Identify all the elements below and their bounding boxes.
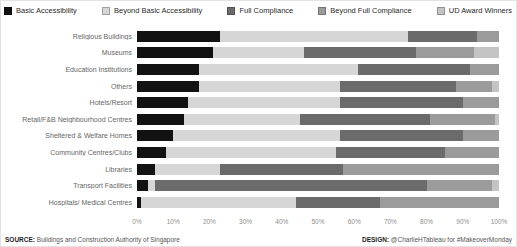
bar-segment — [416, 47, 474, 58]
bar-segment — [495, 114, 499, 125]
stacked-bar — [137, 64, 499, 75]
category-label: Museums — [1, 49, 137, 56]
bar-segment — [155, 180, 427, 191]
stacked-bar — [137, 81, 499, 92]
bar-segment — [155, 164, 220, 175]
x-axis-tick: 30% — [239, 218, 252, 225]
legend-item-4: Beyond Full Compliance — [318, 6, 411, 15]
bar-segment — [137, 81, 199, 92]
bar-segment — [340, 97, 463, 108]
legend-label: UD Award Winners — [449, 6, 512, 15]
category-label: Transport Facilities — [1, 182, 137, 189]
bar-segment — [340, 130, 463, 141]
bar-segment — [137, 114, 184, 125]
stacked-bar — [137, 31, 499, 42]
legend-swatch-icon — [227, 7, 235, 15]
x-axis-tick: 50% — [311, 218, 324, 225]
bar-segment — [173, 130, 340, 141]
bar-segment — [358, 64, 470, 75]
bar-row: Libraries — [1, 161, 517, 178]
bar-segment — [380, 197, 499, 208]
x-axis-tick: 80% — [420, 218, 433, 225]
bar-segment — [343, 164, 499, 175]
x-axis-tick: 100% — [491, 218, 508, 225]
legend-label: Beyond Full Compliance — [330, 6, 411, 15]
bar-segment — [474, 47, 499, 58]
bar-segment — [188, 97, 340, 108]
bar-segment — [340, 81, 456, 92]
x-axis-tick: 20% — [203, 218, 216, 225]
bar-segment — [300, 114, 430, 125]
bar-segment — [199, 81, 340, 92]
legend-item-2: Beyond Basic Accessibility — [102, 6, 202, 15]
bar-segment — [137, 130, 173, 141]
category-label: Religious Buildings — [1, 33, 137, 40]
bar-segment — [463, 130, 499, 141]
legend-swatch-icon — [102, 7, 110, 15]
bar-segment — [456, 81, 492, 92]
stacked-bar — [137, 197, 499, 208]
category-label: Education Institutions — [1, 66, 137, 73]
x-axis-tick: 70% — [384, 218, 397, 225]
bar-segment — [427, 180, 492, 191]
bar-segment — [477, 31, 499, 42]
bar-row: Museums — [1, 45, 517, 62]
bar-row: Religious Buildings — [1, 28, 517, 45]
bar-segment — [137, 47, 213, 58]
category-label: Sheltered & Welfare Homes — [1, 132, 137, 139]
stacked-bar — [137, 180, 499, 191]
category-label: Hotels/Resort — [1, 99, 137, 106]
bar-row: Hotels/Resort — [1, 94, 517, 111]
chart-rows: Religious BuildingsMuseumsEducation Inst… — [1, 28, 517, 211]
legend-swatch-icon — [437, 7, 445, 15]
bar-segment — [336, 147, 445, 158]
source-text: Buildings and Construction Authority of … — [35, 236, 180, 243]
x-axis-tick: 60% — [348, 218, 361, 225]
bar-segment — [463, 97, 499, 108]
stacked-bar — [137, 130, 499, 141]
bar-segment — [304, 47, 416, 58]
bar-segment — [137, 97, 188, 108]
bar-segment — [220, 31, 408, 42]
x-axis-tick: 0% — [132, 218, 141, 225]
bar-segment — [137, 64, 199, 75]
category-label: Others — [1, 83, 137, 90]
stacked-bar — [137, 147, 499, 158]
bar-segment — [141, 197, 297, 208]
x-axis: 0%10%20%30%40%50%60%70%80%90%100% — [137, 218, 499, 228]
bar-segment — [213, 47, 304, 58]
design-label: DESIGN: — [362, 236, 389, 243]
bar-segment — [137, 147, 166, 158]
legend-item-3: Full Compliance — [227, 6, 293, 15]
chart-canvas: Basic AccessibilityBeyond Basic Accessib… — [0, 0, 517, 247]
category-label: Community Centres/Clubs — [1, 149, 137, 156]
bar-segment — [148, 180, 155, 191]
bar-segment — [408, 31, 477, 42]
stacked-bar — [137, 97, 499, 108]
footer: SOURCE: Buildings and Construction Autho… — [5, 236, 512, 243]
stacked-bar — [137, 114, 499, 125]
source-note: SOURCE: Buildings and Construction Autho… — [5, 236, 180, 243]
stacked-bar — [137, 164, 499, 175]
x-axis-tick: 40% — [275, 218, 288, 225]
source-label: SOURCE: — [5, 236, 35, 243]
bar-row: Education Institutions — [1, 61, 517, 78]
legend-label: Full Compliance — [239, 6, 293, 15]
x-axis-tick: 90% — [456, 218, 469, 225]
bar-row: Hospitals/ Medical Centres — [1, 194, 517, 211]
legend-label: Basic Accessibility — [16, 6, 77, 15]
category-label: Libraries — [1, 166, 137, 173]
bar-segment — [166, 147, 336, 158]
bar-segment — [492, 180, 499, 191]
bar-segment — [470, 64, 499, 75]
stacked-bar — [137, 47, 499, 58]
bar-segment — [184, 114, 300, 125]
bar-segment — [220, 164, 343, 175]
legend-swatch-icon — [318, 7, 326, 15]
bar-row: Community Centres/Clubs — [1, 144, 517, 161]
bar-segment — [430, 114, 495, 125]
legend-item-1: Basic Accessibility — [4, 6, 77, 15]
bar-segment — [199, 64, 358, 75]
x-axis-tick: 10% — [167, 218, 180, 225]
bar-row: Others — [1, 78, 517, 95]
